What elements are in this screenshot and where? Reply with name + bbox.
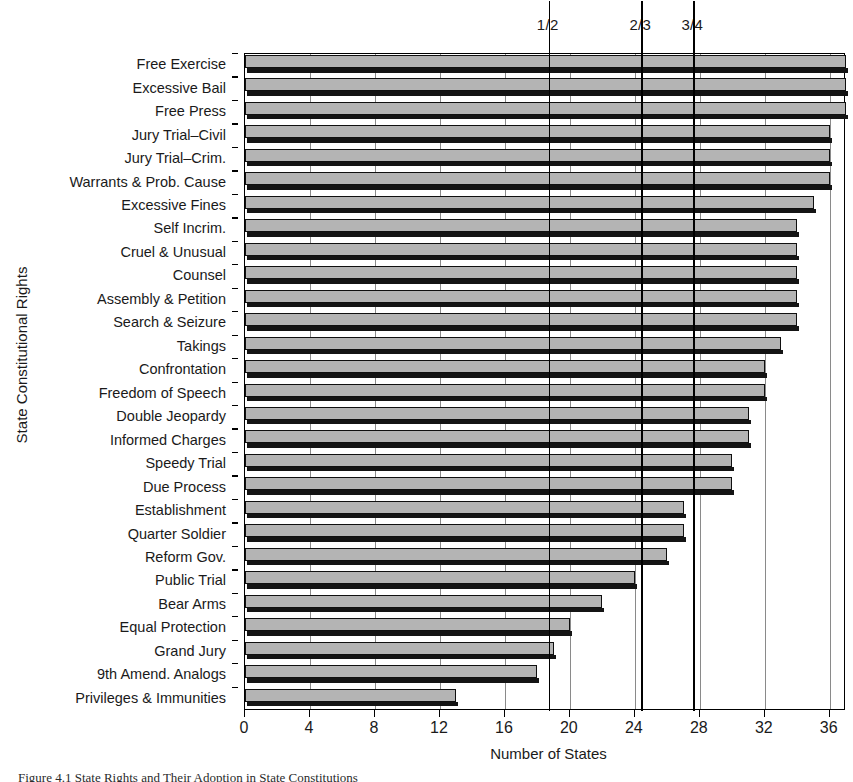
bar-row	[245, 336, 846, 359]
bar	[245, 243, 797, 256]
y-axis-label: Bear Arms	[158, 597, 226, 612]
reference-line-label: 2/3	[629, 17, 651, 32]
reference-line-label: 3/4	[681, 17, 703, 32]
y-axis-tick	[232, 640, 238, 641]
bar-shadow	[247, 91, 848, 96]
bar	[245, 430, 749, 443]
x-axis-tick-label: 12	[430, 720, 448, 736]
y-axis-label: Free Press	[155, 104, 226, 119]
bar-shadow	[247, 702, 458, 707]
bar-row	[245, 641, 846, 664]
y-axis-tick	[232, 452, 238, 453]
bar-shadow	[247, 256, 799, 261]
bar-shadow	[247, 232, 799, 237]
bar	[245, 290, 797, 303]
bar-row	[245, 688, 846, 711]
bar	[245, 125, 830, 138]
bar-row	[245, 523, 846, 546]
y-axis-tick	[232, 147, 238, 148]
bar-shadow	[247, 631, 572, 636]
bar	[245, 618, 570, 631]
bar	[245, 360, 765, 373]
x-axis-tick	[504, 710, 505, 717]
y-axis-tick	[232, 687, 238, 688]
bar-row	[245, 453, 846, 476]
y-axis-tick	[232, 569, 238, 570]
bar	[245, 524, 684, 537]
bar-row	[245, 617, 846, 640]
bar-row	[245, 148, 846, 171]
y-axis-label: Equal Protection	[120, 620, 226, 635]
y-axis-tick	[232, 593, 238, 594]
x-axis-tick	[569, 710, 570, 717]
x-axis-ticks	[244, 710, 845, 718]
x-axis-tick	[244, 710, 245, 717]
bar	[245, 642, 554, 655]
y-axis-label: Freedom of Speech	[99, 386, 226, 401]
y-axis-label: Quarter Soldier	[128, 527, 226, 542]
bar-shadow	[247, 561, 669, 566]
x-axis-tick-label: 20	[560, 720, 578, 736]
x-axis-title: Number of States	[244, 745, 853, 762]
y-axis-label: Cruel & Unusual	[120, 245, 226, 260]
y-axis-tick	[232, 288, 238, 289]
bar-shadow	[247, 514, 686, 519]
bar-row	[245, 664, 846, 687]
y-axis-tick	[232, 428, 238, 429]
x-axis-tick	[829, 710, 830, 717]
x-axis-tick-label: 16	[495, 720, 513, 736]
bar-shadow	[247, 138, 832, 143]
bar	[245, 337, 781, 350]
y-axis-label: Excessive Fines	[121, 198, 226, 213]
x-axis-tick	[634, 710, 635, 717]
y-axis-tick	[232, 123, 238, 124]
x-axis-tick	[374, 710, 375, 717]
x-axis-tick-label: 0	[240, 720, 249, 736]
y-axis-tick	[232, 358, 238, 359]
y-axis-label: Informed Charges	[110, 433, 226, 448]
bar-row	[245, 429, 846, 452]
bar-shadow	[247, 420, 751, 425]
bar-shadow	[247, 537, 686, 542]
y-axis-label: Search & Seizure	[113, 315, 226, 330]
bar-shadow	[247, 303, 799, 308]
y-axis-label: Jury Trial–Civil	[132, 128, 226, 143]
x-axis-tick-label: 28	[690, 720, 708, 736]
y-axis-label: Free Exercise	[137, 57, 226, 72]
bar-row	[245, 359, 846, 382]
bar-row	[245, 265, 846, 288]
y-axis-label: Takings	[177, 339, 226, 354]
bar-shadow	[247, 678, 539, 683]
bar-row	[245, 101, 846, 124]
y-axis-label: Excessive Bail	[133, 81, 226, 96]
bar-shadow	[247, 68, 848, 73]
bar-row	[245, 500, 846, 523]
bar-shadow	[247, 350, 783, 355]
x-axis-tick-label: 8	[369, 720, 378, 736]
x-axis-tick	[439, 710, 440, 717]
y-axis-label: Establishment	[135, 503, 226, 518]
bar-row	[245, 383, 846, 406]
bar	[245, 196, 814, 209]
bar-row	[245, 218, 846, 241]
bar	[245, 55, 846, 68]
bar-row	[245, 289, 846, 312]
y-axis-label: Counsel	[173, 268, 226, 283]
bar-shadow	[247, 608, 604, 613]
y-axis-label: Public Trial	[155, 573, 226, 588]
x-axis-tick-label: 32	[755, 720, 773, 736]
y-axis-tick	[232, 663, 238, 664]
bar-row	[245, 54, 846, 77]
y-axis-tick	[232, 311, 238, 312]
x-axis-tick-label: 4	[305, 720, 314, 736]
bar	[245, 477, 732, 490]
x-axis-tick	[699, 710, 700, 717]
y-axis-tick	[232, 382, 238, 383]
y-axis-label: Warrants & Prob. Cause	[69, 175, 226, 190]
bar	[245, 102, 846, 115]
bar-row	[245, 594, 846, 617]
bar-row	[245, 570, 846, 593]
x-axis-tick	[309, 710, 310, 717]
bar-shadow	[247, 209, 816, 214]
bar	[245, 665, 537, 678]
